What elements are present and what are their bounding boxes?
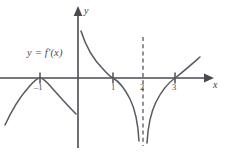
- curve-middle-branch: [81, 31, 139, 141]
- y-axis-label: y: [84, 6, 88, 16]
- tick-label-two: 2: [140, 83, 144, 92]
- curve-annotation-label: y = f′(x): [27, 48, 63, 59]
- tick-label-minus-one: –1: [34, 83, 43, 92]
- function-graph-figure: –1 1 2 3 x y y = f′(x): [0, 0, 229, 152]
- x-axis: [0, 74, 214, 83]
- x-axis-label: x: [213, 80, 217, 90]
- tick-label-three: 3: [172, 83, 176, 92]
- curve-right-branch: [147, 57, 200, 143]
- y-axis-arrow-icon: [74, 6, 83, 16]
- graph-canvas: [0, 0, 229, 152]
- tick-label-one: 1: [111, 83, 115, 92]
- y-axis: [74, 6, 83, 148]
